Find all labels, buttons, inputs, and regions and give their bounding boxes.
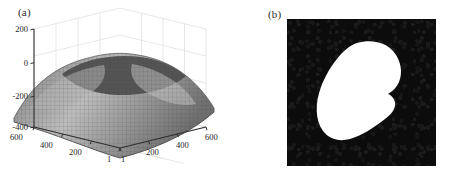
x-right-tick-label-400: 400 [176, 141, 189, 150]
x-left-tick-label-1: 1 [107, 155, 111, 164]
z-tick-label-0: 0 [4, 59, 28, 68]
z-tick-label-minus200: -200 [0, 92, 28, 101]
surface-plot-3d [0, 0, 240, 181]
x-right-tick-label-600: 600 [205, 133, 218, 142]
z-tick-label-200: 200 [4, 25, 28, 34]
white-blob-region [287, 19, 436, 166]
x-left-tick-label-200: 200 [69, 148, 82, 157]
panel-b: (b) [240, 0, 453, 181]
x-left-tick-label-400: 400 [40, 141, 53, 150]
figure-container: (a) [0, 0, 453, 181]
panel-b-label: (b) [268, 8, 281, 20]
binary-mask-image [287, 19, 436, 166]
x-left-tick-label-600: 600 [10, 133, 23, 142]
z-tick-label-minus400: -400 [0, 123, 28, 132]
panel-a: (a) [0, 0, 240, 181]
x-right-tick-label-1: 1 [121, 155, 125, 164]
x-right-tick-label-200: 200 [146, 148, 159, 157]
